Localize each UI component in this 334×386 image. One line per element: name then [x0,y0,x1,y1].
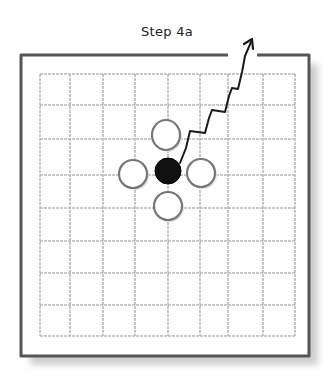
white-stone [152,120,180,150]
white-stone [119,160,147,188]
black-stone [155,158,181,184]
go-board-diagram [0,0,334,386]
white-stone [187,159,215,187]
white-stone [154,192,182,220]
